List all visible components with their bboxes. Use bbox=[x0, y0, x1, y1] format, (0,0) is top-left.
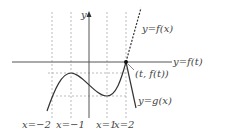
curve-f-of-x-continuation bbox=[126, 8, 141, 62]
function-graph-diagram: y y=f(x) y=f(t) (t, f(t)) y=g(x) x=−2 x=… bbox=[0, 0, 225, 137]
label-y-equals-g-x: y=g(x) bbox=[137, 95, 172, 106]
label-x-2: x=2 bbox=[114, 119, 134, 130]
point-t-f-t bbox=[124, 60, 128, 64]
label-x-neg2: x=−2 bbox=[22, 119, 51, 130]
point-leader-line bbox=[128, 64, 134, 70]
label-y-equals-f-t: y=f(t) bbox=[172, 56, 203, 67]
label-x-neg1: x=−1 bbox=[56, 119, 85, 130]
label-y-equals-f-x: y=f(x) bbox=[141, 23, 173, 34]
y-axis-label: y bbox=[80, 9, 87, 20]
curve-f-of-x bbox=[47, 62, 126, 111]
y-axis-arrow-icon bbox=[87, 11, 92, 17]
label-point-t-f-t: (t, f(t)) bbox=[135, 68, 169, 79]
